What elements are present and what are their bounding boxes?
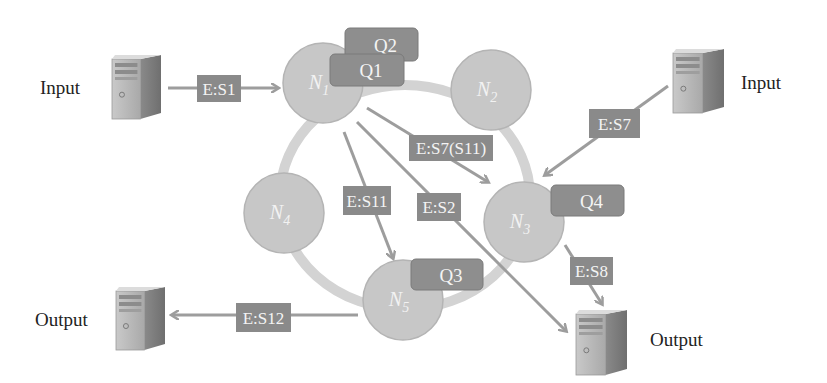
edge-label-text: E:S8 — [575, 262, 608, 281]
output-server: Output — [35, 287, 165, 350]
queue-label: Q2 — [374, 35, 397, 56]
input-server: Input — [40, 55, 161, 119]
edge-label-text: E:S11 — [347, 192, 388, 211]
server-tower-icon — [112, 55, 161, 119]
edge-label-text: E:S7(S11) — [416, 139, 486, 158]
output-server: Output — [576, 310, 704, 375]
input-label: Input — [40, 77, 81, 98]
server-tower-icon — [673, 49, 724, 113]
edge-label-e-s1: E:S1 — [197, 75, 241, 102]
node-n4: N4 — [244, 173, 324, 253]
edge-label-text: E:S1 — [202, 80, 235, 99]
edge-label-text: E:S2 — [422, 198, 455, 217]
queue-q3: Q3 — [411, 259, 483, 290]
queue-q1: Q1 — [330, 54, 404, 86]
server-tower-icon — [116, 287, 165, 350]
output-label: Output — [650, 329, 704, 350]
input-server: Input — [673, 49, 782, 113]
edge-label-e-s8: E:S8 — [570, 257, 613, 285]
queue-q4: Q4 — [551, 185, 624, 216]
edge-label-e-s2: E:S2 — [417, 193, 461, 221]
edge-label-text: E:S12 — [243, 309, 285, 328]
edge-label-e-s7-s11-: E:S7(S11) — [409, 135, 493, 161]
queue-label: Q1 — [359, 60, 382, 81]
edge-label-e-s11: E:S11 — [343, 186, 391, 215]
server-tower-icon — [576, 310, 627, 375]
output-label: Output — [35, 309, 89, 330]
edge-label-text: E:S7 — [598, 115, 632, 134]
stream-processing-diagram: N1N2N3N4N5 Q2Q1Q4Q3 E:S1E:S7E:S7(S11)E:S… — [0, 0, 827, 383]
input-label: Input — [741, 72, 782, 93]
node-n2: N2 — [451, 50, 531, 130]
edge-label-e-s7: E:S7 — [589, 109, 640, 138]
queue-label: Q3 — [439, 265, 462, 286]
queue-label: Q4 — [580, 191, 604, 212]
edge-label-e-s12: E:S12 — [236, 303, 291, 332]
